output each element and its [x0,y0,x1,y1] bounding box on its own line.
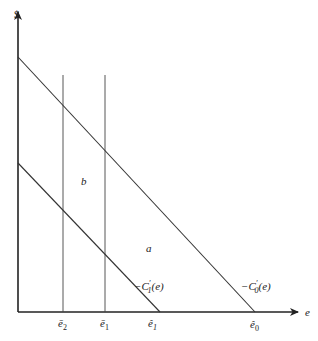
tick-ebar2: ē2 [58,317,67,332]
tick-ehat0: ê0 [250,318,259,333]
tick-ehat1: ê1 [148,317,157,332]
y-axis-label: $ [14,8,20,20]
x-axis-label: e [305,306,310,318]
c0-curve-label: −C′0(e) [241,279,271,295]
region-a-label: a [146,242,152,254]
marginal-cost-diagram: $ e −C′1(e) −C′0(e) b a ē2 ē1 ê1 ê0 [0,0,318,341]
c1-curve-label: −C′1(e) [134,279,164,295]
c0-curve [18,57,255,312]
tick-ebar1: ē1 [100,317,109,332]
region-b-label: b [81,175,87,187]
